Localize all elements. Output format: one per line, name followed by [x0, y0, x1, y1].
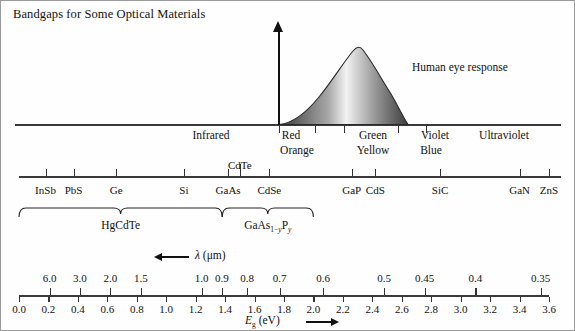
brace-1	[222, 208, 313, 217]
wavelength-tick-0.45	[425, 288, 426, 295]
wavelength-tick-label-2.0: 2.0	[103, 272, 117, 284]
energy-tick-2.6	[402, 297, 403, 302]
energy-tick-label-1.4: 1.4	[218, 303, 232, 315]
wavelength-axis-label: λ (μm)	[195, 249, 226, 261]
brace-0	[19, 208, 222, 217]
energy-tick-label-0.6: 0.6	[100, 303, 114, 315]
energy-tick-2.2	[343, 297, 344, 302]
energy-tick-1.4	[225, 297, 226, 302]
energy-tick-label-1.2: 1.2	[189, 303, 203, 315]
energy-arrow-icon	[331, 318, 339, 326]
energy-tick-3.0	[461, 297, 462, 302]
wavelength-tick-label-3.0: 3.0	[73, 272, 87, 284]
energy-tick-label-2.6: 2.6	[395, 303, 409, 315]
energy-tick-label-2.2: 2.2	[336, 303, 350, 315]
wavelength-tick-label-1.0: 1.0	[195, 272, 209, 284]
wavelength-tick-0.6	[323, 288, 324, 295]
wavelength-tick-0.5	[384, 288, 385, 295]
energy-tick-label-0.4: 0.4	[71, 303, 85, 315]
energy-tick-0.8	[137, 297, 138, 302]
wavelength-tick-0.4	[475, 288, 476, 295]
energy-arrow-line	[306, 321, 332, 322]
energy-tick-label-3.4: 3.4	[513, 303, 527, 315]
energy-tick-0.4	[78, 297, 79, 302]
figure-bandgaps-optical-materials: Bandgaps for Some Optical Materials Huma…	[0, 0, 575, 331]
energy-tick-1.8	[284, 297, 285, 302]
energy-tick-label-2.8: 2.8	[424, 303, 438, 315]
energy-tick-0.6	[107, 297, 108, 302]
energy-tick-3.4	[520, 297, 521, 302]
wavelength-tick-label-0.6: 0.6	[316, 272, 330, 284]
energy-tick-0.2	[48, 297, 49, 302]
wavelength-tick-6.0	[50, 288, 51, 295]
energy-tick-2.0	[313, 297, 314, 302]
wavelength-tick-label-6.0: 6.0	[43, 272, 57, 284]
energy-tick-1.0	[166, 297, 167, 302]
energy-symbol: E	[245, 314, 252, 326]
wavelength-tick-label-0.35: 0.35	[531, 272, 550, 284]
energy-tick-2.8	[431, 297, 432, 302]
wavelength-tick-1.5	[141, 288, 142, 295]
wavelength-tick-label-0.5: 0.5	[377, 272, 391, 284]
energy-tick-label-0.2: 0.2	[42, 303, 56, 315]
energy-axis-label: Eg (eV)	[245, 314, 280, 329]
energy-tick-2.4	[372, 297, 373, 302]
brace-label-HgCdTe: HgCdTe	[101, 219, 140, 231]
wavelength-tick-1.0	[202, 288, 203, 295]
wavelength-tick-2.0	[110, 288, 111, 295]
wavelength-tick-0.9	[222, 288, 223, 295]
energy-subscript: g	[252, 320, 256, 329]
energy-tick-1.6	[255, 297, 256, 302]
wavelength-tick-label-0.45: 0.45	[415, 272, 434, 284]
wavelength-tick-3.0	[80, 288, 81, 295]
energy-tick-label-2.4: 2.4	[365, 303, 379, 315]
wavelength-tick-0.7	[280, 288, 281, 295]
wavelength-tick-label-0.8: 0.8	[240, 272, 254, 284]
energy-tick-1.2	[196, 297, 197, 302]
energy-tick-label-3.6: 3.6	[542, 303, 556, 315]
energy-tick-label-0.8: 0.8	[130, 303, 144, 315]
energy-tick-3.6	[549, 297, 550, 302]
wavelength-tick-0.8	[247, 288, 248, 295]
energy-tick-0.0	[19, 297, 20, 302]
wavelength-tick-label-0.9: 0.9	[215, 272, 229, 284]
energy-tick-label-3.0: 3.0	[454, 303, 468, 315]
wavelength-arrow-line	[161, 256, 189, 257]
wavelength-tick-label-0.4: 0.4	[469, 272, 483, 284]
energy-tick-label-3.2: 3.2	[483, 303, 497, 315]
energy-unit: (eV)	[259, 314, 280, 326]
wavelength-tick-label-0.7: 0.7	[273, 272, 287, 284]
energy-tick-label-2.0: 2.0	[307, 303, 321, 315]
wavelength-tick-label-1.5: 1.5	[134, 272, 148, 284]
energy-tick-3.2	[490, 297, 491, 302]
energy-tick-label-1.0: 1.0	[159, 303, 173, 315]
energy-tick-label-0.0: 0.0	[12, 303, 26, 315]
brace-label-GaAs1-yPy: GaAs1−yPy	[244, 219, 291, 234]
wavelength-tick-0.35	[541, 288, 542, 295]
alloy-brace-group	[1, 1, 575, 331]
